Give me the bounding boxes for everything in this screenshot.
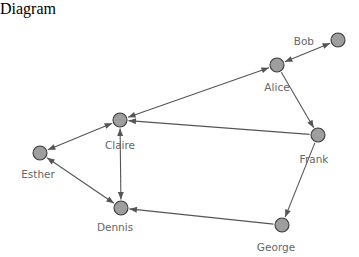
node-bob[interactable] bbox=[331, 33, 345, 47]
node-label-claire: Claire bbox=[105, 139, 135, 151]
node-alice[interactable] bbox=[270, 58, 284, 72]
node-label-dennis: Dennis bbox=[97, 221, 133, 233]
edge-frank-claire bbox=[128, 118, 309, 134]
node-esther[interactable] bbox=[33, 146, 47, 160]
node-frank[interactable] bbox=[311, 128, 325, 142]
edge-alice-claire bbox=[128, 67, 269, 117]
node-george[interactable] bbox=[275, 218, 289, 232]
nodes-layer bbox=[33, 33, 345, 232]
node-claire[interactable] bbox=[113, 113, 127, 127]
node-label-alice: Alice bbox=[264, 81, 289, 93]
edge-esther-dennis bbox=[47, 158, 114, 203]
node-label-frank: Frank bbox=[300, 153, 330, 165]
node-dennis[interactable] bbox=[114, 201, 128, 215]
edge-george-dennis bbox=[129, 207, 273, 224]
node-label-bob: Bob bbox=[294, 35, 315, 47]
edges-layer bbox=[47, 43, 330, 224]
node-label-george: George bbox=[257, 241, 295, 253]
network-diagram-canvas: BobAliceClaireEstherFrankDennisGeorge bbox=[0, 18, 359, 257]
edge-claire-esther bbox=[48, 123, 112, 150]
node-label-esther: Esther bbox=[21, 168, 55, 180]
graph-svg: BobAliceClaireEstherFrankDennisGeorge bbox=[0, 18, 359, 257]
